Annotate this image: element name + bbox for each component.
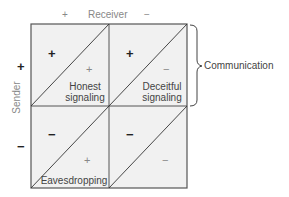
cell-eavesdropping-receiver-sign: + [84, 155, 90, 166]
cell-honest-label: Honestsignaling [60, 81, 110, 103]
sender-axis-label: Sender [11, 78, 22, 118]
communication-brace [190, 25, 202, 106]
sender-minus: − [17, 140, 25, 153]
receiver-axis-label: Receiver [88, 9, 127, 20]
cell-honest-receiver-sign: + [86, 64, 92, 75]
cell-honest-sender-sign: + [48, 47, 56, 60]
cell-deceitful-label: Deceitfulsignaling [137, 81, 187, 103]
sender-plus: + [17, 60, 25, 73]
cell-deceitful-receiver-sign: − [163, 64, 169, 75]
cell-eavesdropping-sender-sign: − [48, 128, 56, 141]
receiver-plus: + [62, 9, 68, 20]
cell-spite-sender-sign: − [126, 128, 134, 141]
communication-label: Communication [204, 60, 273, 71]
cell-deceitful-sender-sign: + [126, 47, 134, 60]
cell-spite-receiver-sign: − [162, 155, 168, 166]
receiver-minus: − [144, 9, 150, 20]
cell-eavesdropping-label: Eavesdropping [39, 175, 109, 186]
